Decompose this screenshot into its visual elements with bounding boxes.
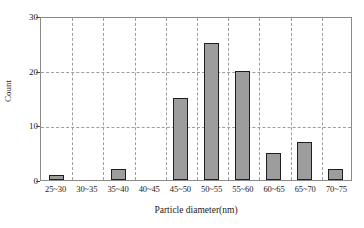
bar-slot-7	[258, 18, 289, 180]
x-axis-tick-labels: 25~30 30~35 35~40 40~45 45~50 50~55 55~6…	[40, 184, 352, 194]
bar-series	[41, 18, 351, 180]
x-tick-label-8: 65~70	[290, 184, 321, 194]
bar-65-70	[297, 142, 312, 180]
histogram-chart: Count 30 20 10 0	[0, 0, 364, 228]
x-tick-label-2: 35~40	[102, 184, 133, 194]
x-tick-label-1: 30~35	[71, 184, 102, 194]
y-axis-title: Count	[0, 0, 16, 182]
bar-slot-8	[289, 18, 320, 180]
x-tick-label-7: 60~65	[258, 184, 289, 194]
y-tick-mark-0	[36, 181, 40, 182]
y-tick-label-0: 0	[14, 177, 38, 186]
x-tick-label-5: 50~55	[196, 184, 227, 194]
bar-slot-6	[227, 18, 258, 180]
x-tick-label-6: 55~60	[227, 184, 258, 194]
x-tick-label-3: 40~45	[134, 184, 165, 194]
bar-70-75	[328, 169, 343, 180]
bar-50-55	[204, 43, 219, 180]
bar-slot-0	[41, 18, 72, 180]
y-tick-label-20: 20	[14, 68, 38, 77]
bar-slot-9	[320, 18, 351, 180]
y-axis-title-text: Count	[3, 80, 13, 102]
bar-25-30	[49, 175, 64, 180]
bar-60-65	[266, 153, 281, 180]
x-axis-title: Particle diameter(nm)	[40, 205, 352, 215]
y-tick-label-10: 10	[14, 122, 38, 131]
x-tick-label-9: 70~75	[321, 184, 352, 194]
bar-slot-5	[196, 18, 227, 180]
x-tick-label-0: 25~30	[40, 184, 71, 194]
bar-35-40	[111, 169, 126, 180]
bar-slot-4	[165, 18, 196, 180]
bar-45-50	[173, 98, 188, 180]
bar-slot-2	[103, 18, 134, 180]
y-tick-label-30: 30	[14, 13, 38, 22]
plot-area	[40, 17, 352, 181]
bar-55-60	[235, 71, 250, 180]
bar-slot-3	[134, 18, 165, 180]
bar-slot-1	[72, 18, 103, 180]
x-tick-label-4: 45~50	[165, 184, 196, 194]
